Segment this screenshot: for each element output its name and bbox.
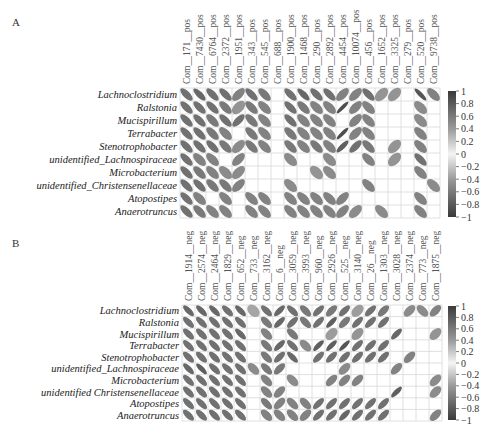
correlation-ellipse (191, 151, 208, 168)
correlation-ellipse (282, 86, 298, 102)
correlation-ellipse (347, 86, 364, 103)
correlation-ellipse (233, 350, 248, 365)
row-label: unidentified Christensenellaceae (41, 387, 179, 398)
correlation-ellipse (363, 350, 378, 365)
correlation-ellipse (243, 112, 260, 129)
correlation-ellipse (285, 315, 300, 330)
row-label: Atopostipes (127, 193, 177, 204)
correlation-ellipse (295, 203, 312, 220)
correlation-ellipse (285, 326, 300, 341)
correlation-ellipse (390, 385, 404, 399)
correlation-ellipse (350, 338, 365, 353)
colorbar (448, 306, 456, 420)
correlation-ellipse (296, 87, 312, 103)
correlation-ellipse (207, 373, 222, 388)
correlation-ellipse (191, 125, 207, 141)
correlation-ellipse (360, 151, 377, 168)
correlation-ellipse (181, 385, 196, 400)
correlation-ellipse (256, 203, 273, 220)
colorbar-tick-label: 0.8 (461, 312, 474, 323)
column-label: Com__1900__pos (286, 14, 296, 84)
correlation-ellipse (321, 125, 338, 142)
correlation-ellipse (325, 316, 339, 330)
correlation-ellipse (256, 86, 273, 103)
colorbar-tick-label: −0.2 (461, 161, 479, 172)
correlation-ellipse (360, 112, 377, 129)
correlation-ellipse (207, 385, 222, 400)
column-label: Com__2926__neg (327, 231, 337, 301)
row-label: Stenotrophobacter (101, 352, 180, 363)
correlation-ellipse (324, 396, 339, 411)
correlation-ellipse (272, 361, 287, 376)
correlation-ellipse (295, 125, 312, 142)
correlation-ellipse (233, 338, 248, 353)
column-label: Com__1829__neg (223, 231, 233, 301)
correlation-ellipse (295, 138, 312, 155)
colorbar-tick-label: −0.2 (461, 369, 479, 380)
correlation-ellipse (220, 373, 235, 388)
colorbar-tick-label: −1 (461, 212, 472, 223)
correlation-ellipse (360, 125, 377, 142)
correlation-ellipse (181, 327, 196, 342)
correlation-ellipse (217, 125, 234, 142)
correlation-ellipse (308, 99, 325, 116)
correlation-ellipse (298, 303, 313, 318)
correlation-ellipse (220, 350, 235, 365)
colorbar-tick-label: 0 (461, 358, 466, 369)
correlation-ellipse (194, 327, 209, 342)
row-label: Lachnoclostridium (97, 89, 178, 100)
correlation-ellipse (376, 338, 391, 353)
correlation-ellipse (181, 304, 195, 318)
correlation-ellipse (256, 125, 273, 142)
correlation-ellipse (191, 190, 208, 207)
correlation-ellipse (425, 86, 442, 103)
figure-caption (95, 434, 415, 442)
column-label: Com__3993__neg (301, 231, 311, 301)
correlation-ellipse (181, 350, 196, 365)
correlation-ellipse (256, 99, 273, 116)
column-label: Com__10074__pos (351, 9, 361, 84)
column-label: Com__545__pos (260, 19, 270, 84)
row-label: Microbacterium (108, 167, 177, 178)
column-label: Com__3162__neg (262, 231, 272, 301)
correlation-ellipse (295, 190, 312, 207)
correlation-ellipse (178, 99, 194, 115)
correlation-ellipse (376, 350, 391, 365)
correlation-ellipse (308, 86, 324, 102)
row-label: Anaerotruncus (114, 206, 177, 217)
correlation-ellipse (282, 190, 299, 207)
correlation-ellipse (233, 315, 248, 330)
correlation-ellipse (192, 87, 208, 103)
column-label: Com__652__neg (236, 235, 246, 301)
column-label: Com__279__pos (403, 19, 413, 84)
column-label: Com__1303__neg (379, 231, 389, 301)
correlation-ellipse (337, 315, 352, 330)
correlation-ellipse (363, 396, 378, 411)
correlation-ellipse (178, 125, 194, 141)
row-label: Ralstonia (136, 102, 177, 113)
correlation-ellipse (285, 350, 299, 364)
correlation-ellipse (412, 190, 429, 207)
column-label: Com__290__pos (312, 19, 322, 84)
correlation-ellipse (412, 125, 429, 142)
correlation-ellipse (220, 303, 235, 318)
correlation-ellipse (285, 338, 300, 353)
correlation-ellipse (233, 304, 247, 318)
column-label: Com__3325__pos (390, 14, 400, 84)
correlation-ellipse (230, 112, 246, 128)
correlation-ellipse (321, 86, 337, 102)
correlation-ellipse (178, 177, 194, 193)
correlation-ellipse (233, 373, 248, 388)
column-label: Com__171__pos (182, 19, 192, 84)
correlation-ellipse (191, 177, 207, 193)
colorbar-tick-label: −0.6 (461, 186, 479, 197)
correlation-ellipse (350, 408, 365, 423)
colorbar (448, 91, 456, 217)
correlation-ellipse (191, 138, 207, 154)
correlation-ellipse (256, 190, 273, 207)
correlation-ellipse (308, 203, 325, 220)
correlation-ellipse (204, 138, 220, 154)
correlation-figure: A B Com__171__posCom__7430__posCom__6764… (0, 0, 499, 446)
correlation-ellipse (321, 99, 338, 116)
correlation-ellipse (272, 350, 287, 365)
